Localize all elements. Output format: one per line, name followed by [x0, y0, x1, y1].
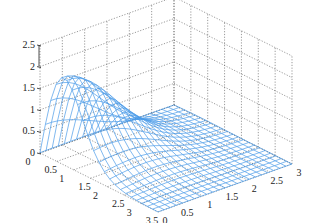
x-tick-label: 0	[26, 156, 31, 167]
x-tick-label: 2	[93, 190, 98, 201]
y-tick-label: 2	[252, 183, 257, 194]
y-tick-label: 0	[163, 215, 168, 223]
surface-plot: 00.511.522.500.511.522.533.500.511.522.5…	[0, 0, 324, 223]
y-tick-label: 1.5	[226, 191, 239, 202]
x-tick-label: 3.5	[146, 215, 159, 223]
x-tick-label: 0.5	[45, 164, 58, 175]
z-tick-label: 1	[30, 104, 35, 115]
y-tick-label: 1	[207, 199, 212, 210]
y-tick-label: 3	[297, 167, 302, 178]
z-tick-label: 1.5	[23, 82, 36, 93]
y-tick-label: 0.5	[181, 207, 194, 218]
z-tick-label: 2	[30, 61, 35, 72]
z-tick-label: 0	[30, 147, 35, 158]
y-tick-label: 2.5	[270, 175, 283, 186]
x-tick-label: 1.5	[78, 181, 91, 192]
x-tick-label: 1	[59, 173, 64, 184]
z-tick-label: 2.5	[23, 39, 36, 50]
x-tick-label: 3	[127, 207, 132, 218]
z-tick-label: 0.5	[23, 125, 36, 136]
x-tick-label: 2.5	[112, 198, 125, 209]
